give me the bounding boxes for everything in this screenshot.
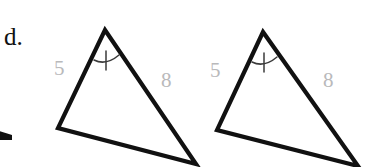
triangle-right-label-5: 5 — [210, 60, 221, 81]
partial-stroke-left-edge — [0, 130, 12, 140]
triangle-left-label-5: 5 — [54, 58, 65, 79]
triangle-right-outline — [217, 32, 358, 166]
worksheet-figure-panel: d. 5 8 5 8 — [0, 0, 378, 167]
triangle-left-label-8: 8 — [161, 70, 172, 91]
triangle-left-outline — [58, 30, 196, 164]
triangle-right — [217, 32, 358, 166]
geometry-figures — [0, 0, 378, 167]
triangle-right-label-8: 8 — [323, 70, 334, 91]
triangle-left — [58, 30, 196, 164]
